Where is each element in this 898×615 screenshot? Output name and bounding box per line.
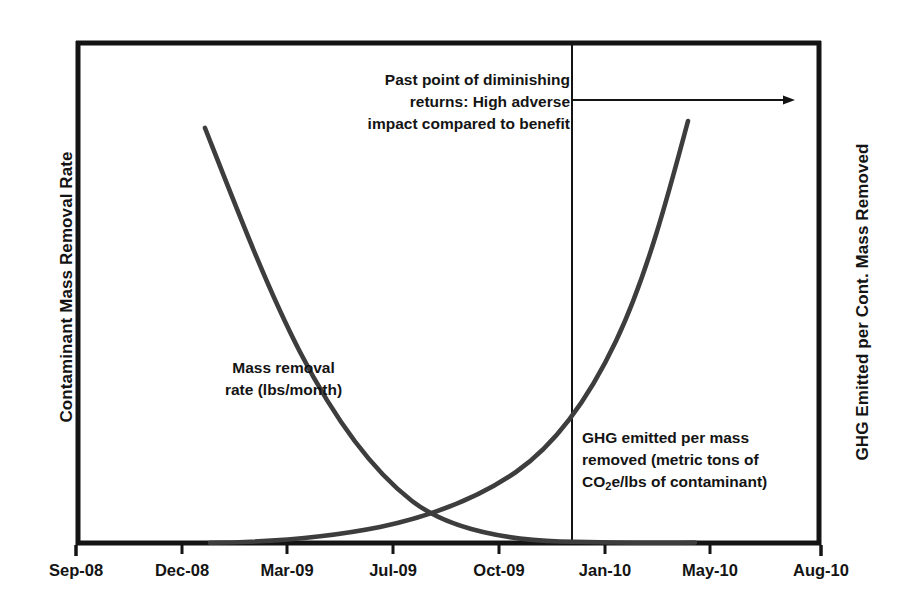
x-axis-tick-labels: Sep-08 Dec-08 Mar-09 Jul-09 Oct-09 Jan-1…	[0, 561, 898, 587]
x-tick-label-may-10: May-10	[682, 561, 738, 580]
diminishing-returns-line-1: Past point of diminishing	[300, 69, 570, 91]
y-axis-left-title: Contaminant Mass Removal Rate	[57, 77, 77, 497]
ghg-formula-subscript: 2	[605, 480, 611, 492]
x-tick-label-jul-09: Jul-09	[369, 561, 417, 580]
mass-removal-line-2: rate (lbs/month)	[176, 379, 391, 401]
ghg-emitted-line-3: CO2e/lbs of contaminant)	[582, 471, 822, 493]
diminishing-returns-annotation: Past point of diminishing returns: High …	[300, 69, 570, 135]
x-tick-label-dec-08: Dec-08	[155, 561, 209, 580]
diminishing-returns-line-2: returns: High adverse	[300, 91, 570, 113]
ghg-formula-prefix: CO	[582, 473, 605, 490]
past-point-arrow	[572, 96, 795, 105]
ghg-emitted-line-2: removed (metric tons of	[582, 449, 822, 471]
y-axis-right-title: GHG Emitted per Cont. Mass Removed	[853, 67, 873, 537]
x-tick-label-aug-10: Aug-10	[793, 561, 849, 580]
mass-removal-rate-annotation: Mass removal rate (lbs/month)	[176, 357, 391, 401]
ghg-emitted-line-1: GHG emitted per mass	[582, 427, 822, 449]
ghg-formula-suffix: e/lbs of contaminant)	[611, 473, 767, 490]
mass-removal-line-1: Mass removal	[176, 357, 391, 379]
x-tick-label-oct-09: Oct-09	[473, 561, 524, 580]
ghg-emitted-annotation: GHG emitted per mass removed (metric ton…	[582, 427, 822, 493]
x-tick-label-jan-10: Jan-10	[579, 561, 631, 580]
chart-container: Contaminant Mass Removal Rate GHG Emitte…	[0, 0, 898, 615]
x-tick-label-mar-09: Mar-09	[260, 561, 313, 580]
x-axis-ticks	[76, 545, 821, 556]
x-tick-label-sep-08: Sep-08	[49, 561, 103, 580]
diminishing-returns-line-3: impact compared to benefit	[300, 113, 570, 135]
